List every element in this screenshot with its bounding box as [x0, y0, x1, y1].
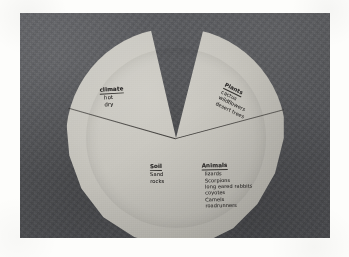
pie-slice-label-animals: Animals lizards Scorpions long eared rab… — [202, 162, 253, 209]
plate-body — [66, 28, 286, 238]
pie-slice-label-climate: climate hot dry — [99, 85, 124, 108]
photograph: climate hot dry Plants cactus wildflower… — [20, 13, 330, 238]
animals-heading: Animals — [202, 162, 228, 171]
soil-item-1: rocks — [150, 178, 164, 185]
animals-item-5: roadrunners — [202, 202, 253, 209]
climate-item-1: dry — [100, 100, 124, 108]
soil-heading: Soil — [150, 163, 162, 171]
paper-plate-pie-chart: climate hot dry Plants cactus wildflower… — [66, 28, 286, 238]
pie-slice-label-soil: Soil Sand rocks — [150, 163, 165, 185]
